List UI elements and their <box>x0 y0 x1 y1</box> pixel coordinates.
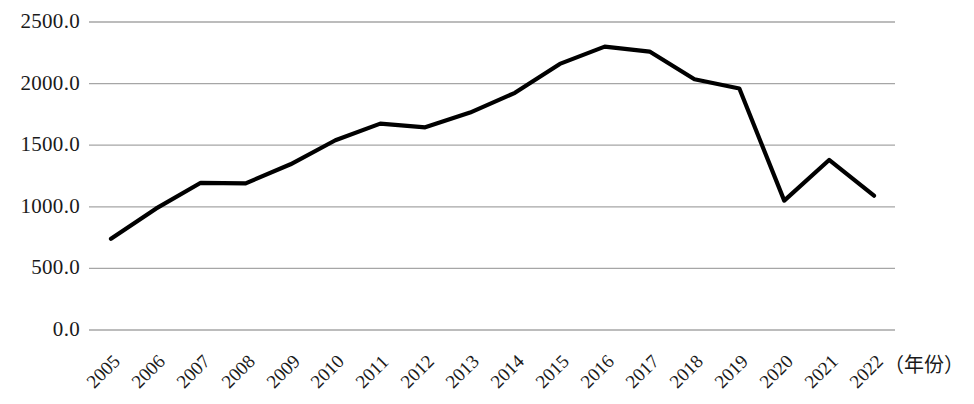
y-tick-label: 1500.0 <box>20 134 80 155</box>
data-series-line <box>111 47 874 239</box>
chart-plot-area <box>0 0 974 404</box>
y-tick-label: 2000.0 <box>20 73 80 94</box>
y-tick-label: 2500.0 <box>20 11 80 32</box>
x-axis-title: （年份） <box>884 355 964 375</box>
y-tick-label: 1000.0 <box>20 196 80 217</box>
y-tick-label: 0.0 <box>53 319 80 340</box>
line-chart: 2500.02000.01500.01000.0500.00.0 2005200… <box>0 0 974 404</box>
y-tick-label: 500.0 <box>31 257 80 278</box>
